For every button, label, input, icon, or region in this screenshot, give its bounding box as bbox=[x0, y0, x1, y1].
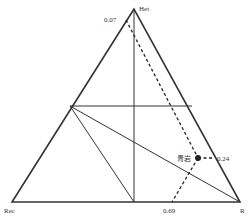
vertex-label-r: R bbox=[240, 207, 245, 215]
point-label: 青岩 bbox=[177, 154, 191, 163]
dashed-line-upper bbox=[126, 20, 198, 158]
data-point bbox=[195, 155, 201, 161]
dashed-line-lower bbox=[172, 158, 198, 202]
left-to-bottom-line bbox=[70, 106, 134, 202]
value-label-right: 0.24 bbox=[217, 155, 230, 163]
value-label-top: 0.07 bbox=[104, 16, 117, 24]
vertex-label-het: Het bbox=[139, 5, 149, 13]
ternary-diagram: Het Rec R 0.07 0.69 青岩 0.24 bbox=[0, 0, 251, 220]
value-label-bottom: 0.69 bbox=[163, 207, 176, 215]
vertex-label-rec: Rec bbox=[4, 207, 15, 215]
